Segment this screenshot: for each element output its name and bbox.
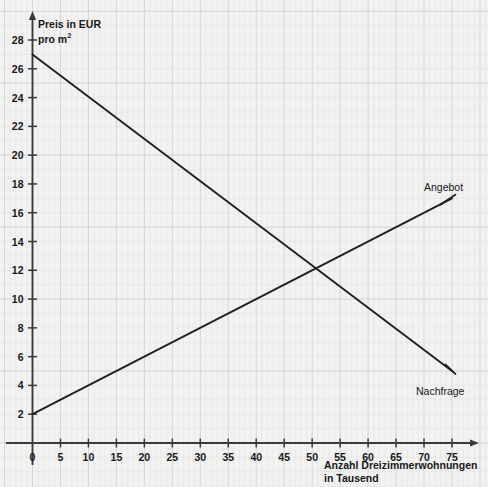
x-tick-label: 30	[194, 452, 206, 463]
x-tick-label: 5	[58, 452, 64, 463]
series-line-nachfrage	[33, 54, 453, 371]
y-tick-label: 26	[4, 64, 24, 75]
series-label-nachfrage: Nachfrage	[416, 386, 464, 397]
x-tick-label: 40	[250, 452, 262, 463]
x-tick-label: 70	[418, 452, 430, 463]
y-tick-label: 10	[4, 294, 24, 305]
x-tick-label: 20	[139, 452, 151, 463]
x-axis-title-line2: in Tausend	[324, 472, 477, 485]
y-tick-label: 8	[4, 323, 24, 334]
x-tick-label: 65	[390, 452, 402, 463]
x-tick-label: 60	[362, 452, 374, 463]
y-tick-label: 20	[4, 150, 24, 161]
y-tick-label: 24	[4, 92, 24, 103]
series-line-angebot	[33, 198, 453, 414]
y-axis-title: Preis in EUR pro m2	[38, 18, 101, 46]
y-tick-label: 16	[4, 207, 24, 218]
plot-area	[0, 0, 488, 487]
y-tick-label: 18	[4, 179, 24, 190]
x-axis-title: Anzahl Dreizimmerwohnungen in Tausend	[324, 459, 477, 486]
supply-demand-chart: Preis in EUR pro m2 Anzahl Dreizimmerwoh…	[0, 0, 488, 487]
y-tick-label: 2	[4, 409, 24, 420]
y-tick-label: 6	[4, 351, 24, 362]
x-tick-label: 75	[446, 452, 458, 463]
x-tick-label: 55	[334, 452, 346, 463]
x-tick-label: 35	[222, 452, 234, 463]
origin-label: 0	[30, 452, 36, 463]
x-tick-label: 15	[111, 452, 123, 463]
y-tick-label: 14	[4, 236, 24, 247]
y-tick-label: 22	[4, 121, 24, 132]
x-tick-label: 25	[166, 452, 178, 463]
y-tick-label: 4	[4, 380, 24, 391]
x-tick-label: 10	[83, 452, 95, 463]
y-axis-title-line1: Preis in EUR	[38, 18, 101, 31]
y-axis-title-superscript: 2	[67, 31, 71, 40]
y-tick-label: 28	[4, 35, 24, 46]
x-tick-label: 50	[306, 452, 318, 463]
x-tick-label: 45	[278, 452, 290, 463]
y-tick-label: 12	[4, 265, 24, 276]
y-axis-title-line2: pro m2	[38, 31, 101, 46]
series-label-angebot: Angebot	[424, 182, 463, 193]
y-axis-title-line2-text: pro m	[38, 33, 67, 45]
